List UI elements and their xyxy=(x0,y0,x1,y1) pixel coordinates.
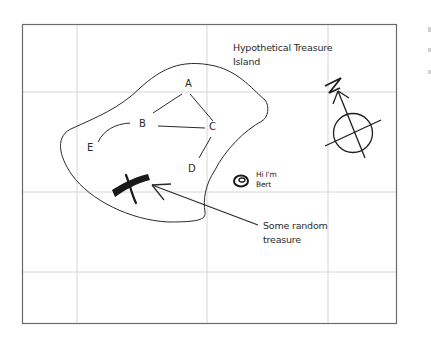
treasure-label-line1: Some random xyxy=(263,219,328,233)
map-title-line1: Hypothetical Treasure xyxy=(233,41,332,55)
bert-icon xyxy=(234,176,248,187)
node-a-label: A xyxy=(185,78,192,89)
treasure-arrow xyxy=(152,184,258,225)
bert-label-line1: Hi I'm xyxy=(256,170,277,180)
node-d-label: D xyxy=(188,163,196,174)
edge-c-d xyxy=(199,137,211,158)
treasure-map xyxy=(0,0,431,339)
map-title-line2: Island xyxy=(233,55,260,69)
edge-a-c xyxy=(190,94,213,121)
node-e-label: E xyxy=(87,142,93,153)
edge-b-e xyxy=(98,123,130,142)
compass-icon xyxy=(325,78,381,158)
node-edges xyxy=(98,94,213,158)
bert-label-line2: Bert xyxy=(256,180,271,190)
map-frame xyxy=(23,25,397,324)
treasure-x-icon xyxy=(112,174,150,203)
edge-b-c xyxy=(158,126,205,128)
edge-a-b xyxy=(153,94,182,113)
node-b-label: B xyxy=(139,118,146,129)
treasure-label-line2: treasure xyxy=(263,233,301,247)
map-grid xyxy=(22,24,397,324)
node-c-label: C xyxy=(209,121,216,132)
